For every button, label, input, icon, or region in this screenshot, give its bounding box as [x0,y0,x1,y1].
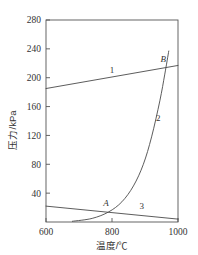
y-tick-label: 280 [27,15,42,25]
chart-container: 4080120160200240280 6008001000 123 AB 压力… [0,0,198,255]
pressure-temperature-chart: 4080120160200240280 6008001000 123 AB 压力… [0,0,198,255]
y-tick-label: 240 [27,44,42,54]
series-label-2: 2 [156,113,161,123]
annotation-A: A [102,198,109,208]
y-axis-title: 压力/kPa [7,110,18,150]
y-tick-label: 40 [32,189,42,199]
y-tick-label: 160 [27,102,42,112]
x-tick-label: 1000 [169,227,188,237]
x-tick-label: 800 [105,227,120,237]
x-axis-title: 温度/℃ [96,240,129,251]
y-tick-label: 80 [32,160,42,170]
series-label-1: 1 [110,65,115,75]
x-tick-label: 600 [39,227,54,237]
y-tick-label: 200 [27,73,42,83]
annotation-B: B [160,54,166,64]
series-label-3: 3 [139,201,144,211]
y-tick-label: 120 [27,131,42,141]
